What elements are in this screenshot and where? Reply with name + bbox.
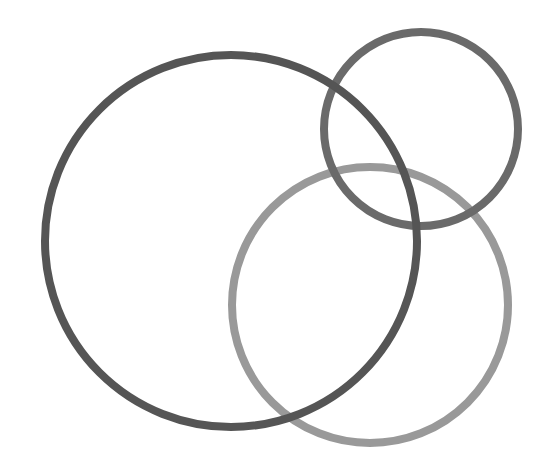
small-circle [324,32,518,226]
large-circle [45,55,417,427]
diagram-canvas [0,0,550,467]
venn-diagram [0,0,550,467]
